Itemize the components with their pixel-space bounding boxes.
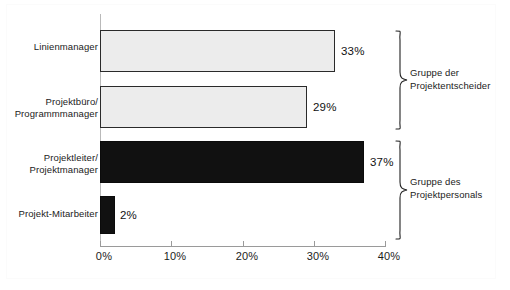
category-label-projekt-mitarbeiter: Projekt-Mitarbeiter (18, 208, 98, 220)
x-tick-mark-40 (385, 241, 386, 247)
x-tick-mark-10 (171, 241, 172, 247)
group-label-entscheider: Gruppe der Projektentscheider (410, 66, 490, 92)
bar-value-projektbuero: 29% (313, 101, 337, 113)
x-tick-label-40: 40% (378, 250, 401, 262)
category-label-projektbuero: Projektbüro/ Programmmanager (15, 96, 98, 120)
bar-projektbuero (100, 86, 307, 128)
category-label-linienmanager: Linienmanager (34, 41, 98, 53)
x-tick-label-30: 30% (307, 250, 330, 262)
group-label-personal: Gruppe des Projektpersonals (410, 175, 482, 201)
bar-projektleiter (100, 141, 364, 183)
bar-chart-figure: 0% 10% 20% 30% 40% Linienmanager Projekt… (0, 0, 510, 290)
x-tick-label-10: 10% (164, 250, 187, 262)
x-tick-label-0: 0% (96, 250, 112, 262)
bar-value-projektleiter: 37% (370, 156, 394, 168)
x-tick-label-20: 20% (236, 250, 259, 262)
bar-linienmanager (100, 30, 335, 72)
category-label-projektleiter: Projektleiter/ Projektmanager (30, 152, 98, 176)
x-tick-mark-30 (314, 241, 315, 247)
bar-projekt-mitarbeiter (100, 196, 115, 234)
bar-value-projekt-mitarbeiter: 2% (120, 209, 137, 221)
bar-value-linienmanager: 33% (341, 45, 365, 57)
x-tick-mark-20 (243, 241, 244, 247)
x-tick-mark-0 (100, 241, 101, 247)
